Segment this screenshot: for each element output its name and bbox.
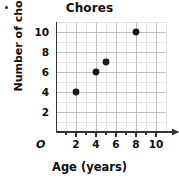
y-tick-label: 2 <box>27 106 49 118</box>
x-tick-label: 6 <box>106 138 126 150</box>
x-axis-title: Age (years) <box>0 160 179 174</box>
chart-title: Chores <box>0 1 179 15</box>
data-point <box>93 69 100 76</box>
y-tick-label: 4 <box>27 86 49 98</box>
x-tick-label: 4 <box>86 138 106 150</box>
data-point <box>73 89 80 96</box>
x-tick-label: 8 <box>126 138 146 150</box>
data-point <box>133 29 140 36</box>
y-axis-title: Number of chores <box>12 0 25 92</box>
x-tick-label: 10 <box>146 138 166 150</box>
plot-canvas <box>56 22 179 144</box>
x-tick-label: 2 <box>66 138 86 150</box>
data-point <box>103 59 110 66</box>
scatter-plot <box>56 22 166 132</box>
y-tick-label: 10 <box>27 26 49 38</box>
x-axis-arrowhead <box>172 128 179 135</box>
y-tick-label: 8 <box>27 46 49 58</box>
origin-label: O <box>36 138 45 151</box>
y-tick-label: 6 <box>27 66 49 78</box>
